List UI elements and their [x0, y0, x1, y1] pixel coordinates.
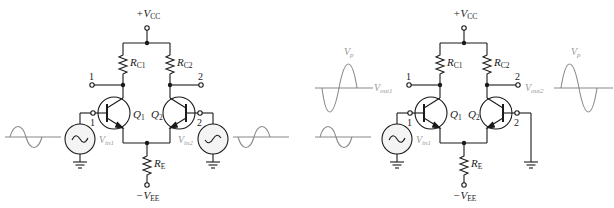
out2-junction-dot [485, 83, 489, 87]
out2-label: 2 [198, 71, 203, 82]
out2-terminal [199, 83, 203, 87]
in1-label: 1 [90, 117, 95, 128]
out2-terminal [516, 83, 520, 87]
resistor-rc1 [436, 49, 444, 79]
transistor-q1 [95, 97, 130, 129]
q2-label: Q2 [151, 108, 163, 122]
right-circuit: +VCC RC1 RC2 1 2 Q1 [315, 7, 613, 203]
q2-label: Q2 [468, 108, 480, 122]
vcc-junction-dot [145, 41, 149, 45]
vee-label: −VEE [453, 189, 477, 203]
resistor-rc2 [483, 49, 491, 79]
resistor-rc1 [119, 49, 127, 79]
re-label: RE [470, 157, 483, 171]
left-circuit: +VCC RC1 RC2 1 2 Q1 [5, 7, 289, 203]
vcc-junction-dot [462, 41, 466, 45]
rc2-label: RC2 [176, 56, 193, 70]
vout2-waveform [554, 64, 613, 112]
vin1-waveform [5, 127, 61, 148]
q1-label: Q1 [133, 108, 145, 122]
q1-label: Q1 [450, 108, 462, 122]
rc1-label: RC1 [446, 56, 463, 70]
out1-terminal [407, 83, 411, 87]
out1-junction-dot [438, 83, 442, 87]
transistor-q2 [480, 97, 515, 129]
vin1-label: Vin1 [416, 134, 431, 147]
vin2-source [198, 124, 228, 154]
rc1-label: RC1 [129, 56, 146, 70]
in2-label: 2 [514, 117, 519, 128]
in1-terminal [91, 111, 95, 115]
vout1-label: Vout1 [374, 82, 393, 95]
transistor-q2 [163, 97, 198, 129]
vee-label: −VEE [136, 189, 160, 203]
vcc-terminal [462, 26, 466, 30]
vin1-ground-icon [73, 162, 87, 168]
out2-label: 2 [515, 71, 520, 82]
vout1-waveform [315, 64, 373, 112]
vin2-ground-icon [206, 162, 220, 168]
vcc-label: +VCC [136, 7, 160, 21]
out1-label: 1 [406, 71, 411, 82]
in1-label: 1 [407, 117, 412, 128]
vee-terminal [145, 183, 149, 187]
out1-label: 1 [89, 71, 94, 82]
rc2-label: RC2 [493, 56, 510, 70]
vin1-source [65, 124, 95, 154]
vee-terminal [462, 183, 466, 187]
in2-terminal [198, 111, 202, 115]
vcc-terminal [145, 26, 149, 30]
vp1-label: Vp [344, 46, 354, 59]
vcc-label: +VCC [453, 7, 477, 21]
in1-terminal [408, 111, 412, 115]
in2-ground-icon [524, 162, 538, 168]
vin2-waveform [233, 127, 289, 148]
out1-terminal [90, 83, 94, 87]
out2-junction-dot [168, 83, 172, 87]
vin1-source [382, 124, 412, 154]
vout2-label: Vout2 [525, 82, 544, 95]
vin1-label: Vin1 [99, 134, 114, 147]
differential-amplifier-diagram: +VCC RC1 RC2 1 2 Q1 [0, 0, 614, 208]
transistor-q1 [412, 97, 447, 129]
vin1-waveform [315, 127, 371, 148]
resistor-rc2 [166, 49, 174, 79]
vin2-label: Vin2 [178, 134, 194, 147]
vp2-label: Vp [571, 46, 581, 59]
in2-terminal [515, 111, 519, 115]
resistor-re [143, 150, 151, 180]
resistor-re [460, 150, 468, 180]
re-label: RE [153, 157, 166, 171]
out1-junction-dot [121, 83, 125, 87]
vin1-ground-icon [390, 162, 404, 168]
in2-label: 2 [197, 117, 202, 128]
